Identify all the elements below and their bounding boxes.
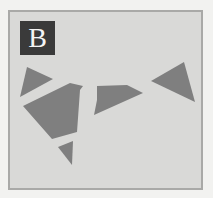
fragment-triangle-right [151,62,195,102]
fragment-large-polygon [23,83,83,139]
fragment-middle-quad [94,85,143,115]
fragments-layer [0,0,213,198]
fragment-triangle-left [20,67,53,97]
fragment-small-triangle-bottom [58,141,73,165]
